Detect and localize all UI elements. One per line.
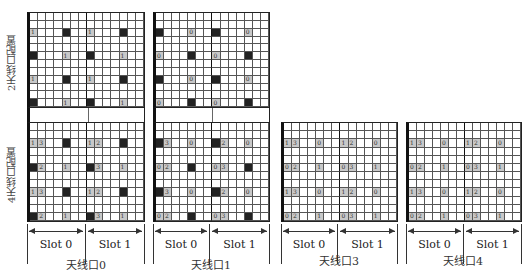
resource-element [489, 188, 497, 196]
unused-resource-element: 0 [120, 76, 128, 84]
resource-element [425, 197, 433, 205]
reference-signal-element: 2 [38, 213, 46, 221]
resource-element [457, 131, 465, 139]
resource-element [253, 197, 261, 205]
resource-element [489, 131, 497, 139]
resource-element [497, 180, 505, 188]
resource-element [481, 205, 489, 213]
reference-signal-element: 3 [221, 164, 229, 172]
resource-element [180, 131, 188, 139]
resource-element [357, 156, 365, 164]
resource-element [164, 205, 172, 213]
resource-element [261, 180, 269, 188]
resource-element [284, 172, 292, 180]
resource-element [188, 68, 196, 76]
resource-element [433, 148, 441, 156]
resource-element [473, 180, 481, 188]
resource-element [229, 21, 237, 29]
resource-element [172, 139, 180, 147]
resource-element [128, 197, 136, 205]
resource-element [253, 29, 261, 37]
resource-element [505, 164, 513, 172]
resource-element [381, 180, 389, 188]
resource-element [46, 197, 54, 205]
reference-signal-element: 0 [156, 213, 164, 221]
resource-element [54, 68, 62, 76]
resource-element [30, 131, 38, 139]
resource-element [417, 123, 425, 131]
reference-signal-element: 2 [292, 164, 300, 172]
resource-element [457, 188, 465, 196]
reference-signal-element: 3 [417, 188, 425, 196]
resource-element [212, 21, 220, 29]
reference-signal-element: 1 [373, 213, 381, 221]
reference-signal-element: 0 [188, 188, 196, 196]
resource-element [120, 180, 128, 188]
resource-element [54, 131, 62, 139]
resource-element [87, 91, 95, 99]
resource-element [253, 37, 261, 45]
resource-element [204, 205, 212, 213]
resource-element [196, 21, 204, 29]
resource-element [71, 68, 79, 76]
slot-0-label: Slot 0 [281, 238, 337, 251]
resource-element [497, 172, 505, 180]
resource-element [221, 156, 229, 164]
reference-signal-element: 1 [63, 164, 71, 172]
resource-element [365, 180, 373, 188]
resource-element [221, 60, 229, 68]
resource-element [253, 180, 261, 188]
resource-element [316, 197, 324, 205]
resource-element [300, 213, 308, 221]
resource-element [95, 99, 103, 107]
resource-element [284, 197, 292, 205]
resource-element [221, 13, 229, 21]
resource-element [457, 180, 465, 188]
resource-element [221, 197, 229, 205]
resource-element [308, 148, 316, 156]
resource-element [505, 188, 513, 196]
resource-element [38, 21, 46, 29]
resource-element [513, 156, 521, 164]
reference-signal-element: 2 [473, 188, 481, 196]
resource-element [229, 131, 237, 139]
resource-element [357, 139, 365, 147]
resource-element [237, 99, 245, 107]
resource-element [87, 131, 95, 139]
resource-element [357, 164, 365, 172]
resource-element [136, 60, 144, 68]
resource-element [111, 13, 119, 21]
resource-element [253, 68, 261, 76]
resource-element [237, 13, 245, 21]
reference-signal-element: 1 [30, 76, 38, 84]
resource-element [79, 213, 87, 221]
resource-element [111, 156, 119, 164]
resource-element [389, 205, 397, 213]
resource-element [30, 197, 38, 205]
resource-element [261, 148, 269, 156]
resource-element [204, 123, 212, 131]
resource-element [389, 156, 397, 164]
resource-element [221, 131, 229, 139]
reference-signal-element: 1 [63, 52, 71, 60]
resource-element [513, 123, 521, 131]
resource-element [172, 29, 180, 37]
resource-element [417, 197, 425, 205]
resource-element [417, 156, 425, 164]
resource-element [300, 205, 308, 213]
resource-element [237, 21, 245, 29]
resource-element [120, 123, 128, 131]
resource-element [164, 156, 172, 164]
resource-element [120, 44, 128, 52]
resource-element [316, 156, 324, 164]
resource-element [95, 37, 103, 45]
resource-element [425, 213, 433, 221]
resource-element [111, 180, 119, 188]
resource-element [245, 91, 253, 99]
reference-signal-element: 0 [340, 164, 348, 172]
resource-element [188, 197, 196, 205]
resource-element [324, 180, 332, 188]
resource-element [128, 180, 136, 188]
reference-signal-element: 1 [120, 99, 128, 107]
resource-element [196, 123, 204, 131]
